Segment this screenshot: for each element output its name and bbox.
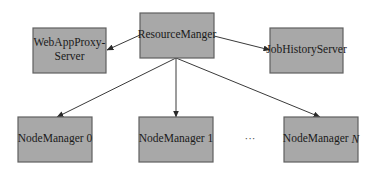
node-label: WebAppProxy- — [34, 36, 106, 49]
node-label: NodeManager N — [283, 132, 361, 145]
arrow-rm-to-jhs — [214, 36, 270, 50]
node-nm0: NodeManager 0 — [18, 117, 93, 162]
node-label: NodeManager 1 — [139, 132, 214, 145]
node-nmN: NodeManager N — [283, 117, 361, 162]
node-jhs: JobHistoryServer — [266, 28, 347, 73]
node-label: NodeManager 0 — [18, 132, 93, 145]
node-rm: ResourceManger — [138, 13, 217, 58]
node-label: JobHistoryServer — [266, 43, 347, 56]
hadoop-yarn-architecture-diagram: ResourceMangerWebAppProxy-ServerJobHisto… — [0, 0, 374, 177]
ellipsis-more-nodemanagers: ··· — [245, 132, 256, 144]
node-label: Server — [54, 50, 84, 62]
arrow-rm-to-wap — [107, 35, 140, 50]
node-wap: WebAppProxy-Server — [33, 28, 106, 73]
node-nm1: NodeManager 1 — [139, 117, 214, 162]
node-label-index: N — [350, 132, 360, 144]
node-label: ResourceManger — [138, 28, 217, 41]
